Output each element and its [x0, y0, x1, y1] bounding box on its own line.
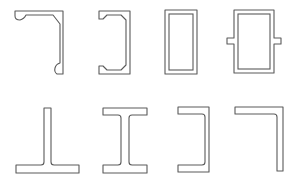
box-section-with-side-tabs-profile	[227, 10, 281, 73]
tee-section-profile	[16, 108, 79, 173]
lipped-angle-with-bulbs-profile	[15, 11, 63, 74]
channel-section-profile	[178, 107, 209, 172]
rectangular-hollow-section-profile	[165, 10, 197, 74]
lipped-channel-profile	[99, 11, 130, 74]
profiles-diagram	[0, 0, 294, 180]
i-beam-section-profile	[103, 108, 147, 173]
angle-section-profile	[235, 107, 283, 171]
